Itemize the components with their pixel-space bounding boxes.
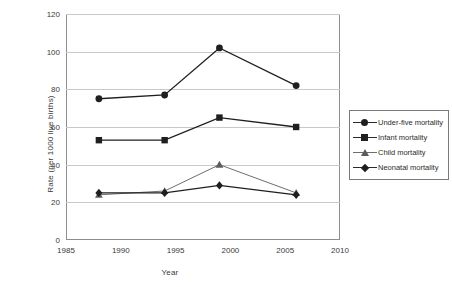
- data-point-0-1: [161, 92, 168, 99]
- legend-label: Child mortality: [378, 148, 426, 157]
- legend: Under-five mortality Infant mortality Ch…: [349, 110, 449, 180]
- y-tick-20: 20: [30, 198, 60, 207]
- y-tick-60: 60: [30, 123, 60, 132]
- y-tick-0: 0: [30, 236, 60, 245]
- x-axis-title: Year: [0, 268, 340, 277]
- x-tick-2010: 2010: [320, 246, 360, 255]
- legend-item-infant[interactable]: Infant mortality: [353, 130, 444, 145]
- legend-label: Neonatal mortality: [378, 163, 438, 172]
- data-point-0-2: [216, 45, 223, 52]
- y-tick-120: 120: [30, 10, 60, 19]
- y-tick-100: 100: [30, 47, 60, 56]
- x-tick-1990: 1990: [101, 246, 141, 255]
- square-marker-icon: [353, 132, 377, 144]
- triangle-marker-icon: [353, 147, 377, 159]
- data-point-3-2: [216, 181, 223, 189]
- data-point-0-0: [95, 95, 102, 102]
- x-tick-2000: 2000: [210, 246, 250, 255]
- series-layer: [66, 14, 340, 240]
- plot-area: [66, 14, 340, 240]
- data-point-0-3: [293, 82, 300, 89]
- series-line-1: [99, 118, 296, 141]
- y-tick-40: 40: [30, 160, 60, 169]
- x-tick-2005: 2005: [265, 246, 305, 255]
- data-point-1-3: [293, 124, 299, 130]
- series-line-3: [99, 185, 296, 194]
- diamond-marker-icon: [353, 162, 377, 174]
- series-line-0: [99, 48, 296, 99]
- legend-label: Under-five mortality: [378, 118, 443, 127]
- y-tick-80: 80: [30, 85, 60, 94]
- data-point-1-0: [96, 137, 102, 143]
- mortality-rate-line-chart: Rate (per 1000 live births) Year 120 100…: [0, 0, 452, 287]
- legend-item-neonatal[interactable]: Neonatal mortality: [353, 160, 444, 175]
- data-point-1-1: [161, 137, 167, 143]
- circle-marker-icon: [353, 117, 377, 129]
- legend-label: Infant mortality: [378, 133, 427, 142]
- legend-item-under-five[interactable]: Under-five mortality: [353, 115, 444, 130]
- x-tick-1985: 1985: [46, 246, 86, 255]
- x-tick-1995: 1995: [156, 246, 196, 255]
- data-point-2-2: [216, 161, 224, 168]
- series-line-2: [99, 165, 296, 195]
- y-axis-title: Rate (per 1000 live births): [46, 95, 55, 192]
- legend-item-child[interactable]: Child mortality: [353, 145, 444, 160]
- data-point-1-2: [216, 114, 222, 120]
